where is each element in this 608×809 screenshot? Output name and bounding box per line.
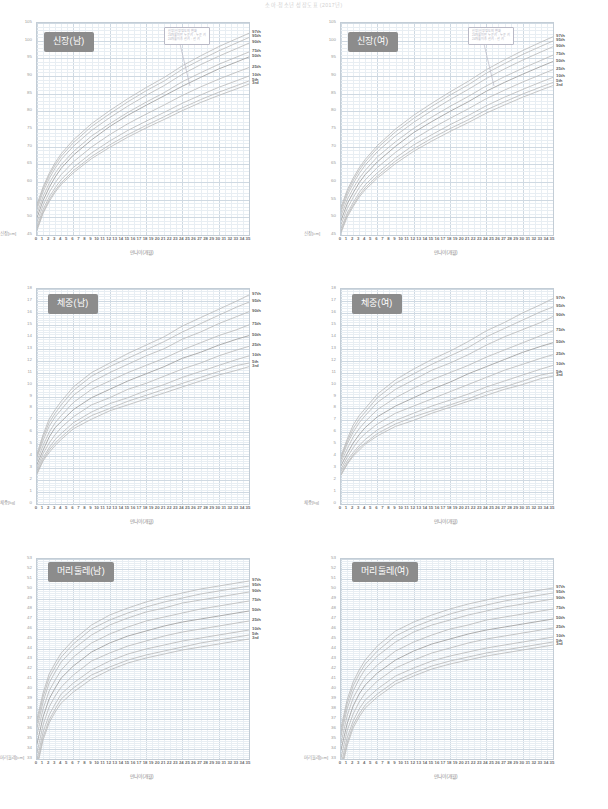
y-axis-tick-label: 53: [10, 556, 32, 560]
y-axis-tick-label: 80: [10, 108, 32, 112]
percentile-curve-95th: [341, 41, 553, 209]
percentile-label-50th: 50th: [556, 616, 565, 620]
callout-line-3: 24개월이후 선키 : 선 키: [472, 38, 510, 42]
callout-line-3: 24개월이후 선키 : 선 키: [168, 38, 206, 42]
percentile-label-95th: 95th: [252, 299, 261, 303]
percentile-curve-75th: [37, 52, 249, 213]
y-axis-tick-label: 80: [314, 108, 336, 112]
y-axis-tick-label: 47: [10, 616, 32, 620]
percentile-curve-10th: [37, 630, 249, 760]
y-axis-tick-label: 5: [314, 441, 336, 445]
y-axis-tick-label: 100: [10, 38, 32, 42]
chart-panel: 1817161514131211109876543210체중[kg]012345…: [304, 280, 608, 550]
y-axis-tick-label: 90: [10, 73, 32, 77]
y-axis-tick-label: 52: [314, 566, 336, 570]
y-axis-title: 체중[kg]: [304, 499, 319, 505]
y-axis-tick-label: 12: [314, 358, 336, 362]
y-axis-tick-label: 14: [10, 334, 32, 338]
y-axis-tick-label: 18: [314, 286, 336, 290]
y-axis-tick-label: 41: [314, 676, 336, 680]
y-axis-tick-label: 7: [314, 417, 336, 421]
plot-area: [36, 22, 250, 236]
percentile-label-90th: 90th: [556, 44, 565, 48]
y-axis-tick-label: 95: [314, 55, 336, 59]
y-axis-tick-label: 70: [10, 144, 32, 148]
y-axis-tick-label: 34: [10, 746, 32, 750]
y-axis-tick-label: 9: [10, 394, 32, 398]
y-axis-tick-label: 3: [10, 465, 32, 469]
percentile-label-25th: 25th: [252, 343, 261, 347]
y-axis-tick-label: 37: [10, 716, 32, 720]
y-axis-tick-label: 14: [314, 334, 336, 338]
y-axis-tick-label: 44: [10, 646, 32, 650]
percentile-curve-90th: [37, 43, 249, 209]
y-axis-tick-label: 46: [10, 626, 32, 630]
y-axis-tick-label: 65: [314, 161, 336, 165]
percentile-label-95th: 95th: [556, 590, 565, 594]
y-axis-tick-label: 95: [10, 55, 32, 59]
percentile-curve-75th: [37, 601, 249, 735]
percentile-label-75th: 75th: [556, 52, 565, 56]
percentile-curves: [37, 559, 249, 759]
percentile-curves: [341, 559, 553, 759]
chart-panel: 1051009590858075706560555045신장[cm]012345…: [304, 10, 608, 280]
percentile-label-3rd: 3rd: [252, 364, 259, 368]
percentile-curve-95th: [341, 307, 553, 457]
y-axis-tick-label: 75: [314, 126, 336, 130]
percentile-curve-5th: [37, 363, 249, 473]
percentile-curve-50th: [37, 57, 249, 218]
y-axis-title: 신장[cm]: [0, 230, 16, 236]
percentile-label-50th: 50th: [556, 59, 565, 63]
chart-title-badge: 신장(여): [348, 32, 398, 52]
y-axis-tick-label: 50: [10, 214, 32, 218]
y-axis-tick-label: 60: [314, 179, 336, 183]
percentile-label-90th: 90th: [252, 589, 261, 593]
percentile-label-50th: 50th: [556, 340, 565, 344]
y-axis-tick-label: 35: [314, 736, 336, 740]
percentile-label-3rd: 3rd: [252, 636, 259, 640]
y-axis-tick-label: 13: [314, 346, 336, 350]
y-axis-tick-label: 11: [314, 370, 336, 374]
y-axis-tick-label: 18: [10, 286, 32, 290]
x-axis-title: 만나이(개월): [36, 517, 248, 524]
gridline-vertical: [249, 559, 250, 759]
annotation-callout: 신장/신장정도의 변화24개월미만 누운키 : 누운 키24개월이후 선키 : …: [164, 27, 210, 45]
percentile-curve-97th: [341, 37, 553, 207]
y-axis-tick-label: 10: [10, 382, 32, 386]
chart-panel: 1817161514131211109876543210체중[kg]012345…: [0, 280, 304, 550]
y-axis-tick-label: 9: [314, 394, 336, 398]
y-axis-tick-label: 50: [314, 214, 336, 218]
y-axis-tick-label: 3: [314, 465, 336, 469]
gridline-vertical: [553, 559, 554, 759]
y-axis-tick-label: 44: [314, 646, 336, 650]
percentile-curves: [37, 23, 249, 235]
chart-panel: 5352515049484746454443424140393837363534…: [0, 550, 304, 805]
y-axis-tick-label: 55: [314, 197, 336, 201]
y-axis-tick-label: 4: [314, 453, 336, 457]
percentile-label-50th: 50th: [252, 54, 261, 58]
y-axis-tick-label: 10: [314, 382, 336, 386]
y-axis-tick-label: 8: [314, 405, 336, 409]
y-axis-title: 머리둘레[cm]: [304, 754, 328, 760]
y-axis-tick-label: 41: [10, 676, 32, 680]
y-axis-tick-label: 4: [10, 453, 32, 457]
x-axis-tick-label: 35: [547, 237, 557, 241]
y-axis-tick-label: 17: [314, 298, 336, 302]
percentile-curve-3rd: [341, 86, 553, 233]
y-axis-tick-label: 2: [314, 477, 336, 481]
y-axis-tick-label: 42: [10, 666, 32, 670]
y-axis-tick-label: 38: [10, 706, 32, 710]
percentile-curves: [37, 289, 249, 504]
percentile-label-3rd: 3rd: [252, 81, 259, 85]
percentile-label-95th: 95th: [556, 38, 565, 42]
x-axis-title: 만나이(개월): [340, 772, 552, 779]
gridline-vertical: [553, 289, 554, 504]
y-axis-tick-label: 40: [314, 686, 336, 690]
callout-tail: [166, 44, 206, 88]
percentile-label-25th: 25th: [556, 67, 565, 71]
x-axis-tick-label: 35: [243, 237, 253, 241]
percentile-curve-90th: [341, 599, 553, 736]
y-axis-tick-label: 6: [10, 429, 32, 433]
percentile-curve-3rd: [341, 645, 553, 760]
percentile-label-90th: 90th: [252, 40, 261, 44]
